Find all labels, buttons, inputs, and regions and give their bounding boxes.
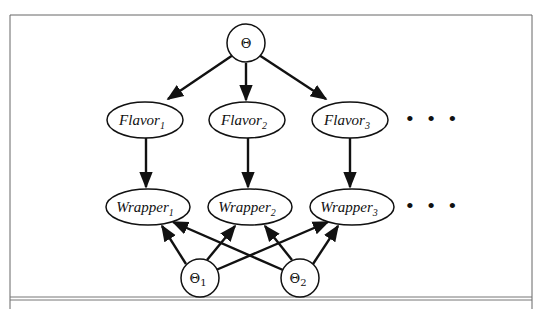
bayes-net-diagram: Θ Flavor1 Flavor2 Flavor3 • • • Wrapper1… bbox=[0, 0, 540, 309]
edge-theta2-wrapper2 bbox=[265, 226, 292, 260]
node-theta1: Θ1 bbox=[181, 259, 219, 297]
node-subscript: 1 bbox=[160, 120, 165, 131]
node-wrapper2: Wrapper2 bbox=[208, 189, 292, 225]
svg-text:Θ: Θ bbox=[241, 36, 252, 51]
node-flavor1: Flavor1 bbox=[107, 102, 183, 138]
edge-theta-flavor1 bbox=[168, 55, 233, 99]
node-subscript: 2 bbox=[271, 207, 276, 218]
node-subscript: 2 bbox=[262, 120, 267, 131]
node-label: Flavor bbox=[323, 112, 365, 128]
node-flavor3: Flavor3 bbox=[312, 102, 388, 138]
node-label: Flavor bbox=[118, 112, 160, 128]
ellipsis-wrappers: • • • bbox=[406, 193, 460, 218]
edge-theta2-wrapper3 bbox=[313, 226, 338, 264]
node-theta-label: Θ bbox=[241, 36, 252, 51]
node-subscript: 1 bbox=[200, 277, 206, 288]
edge-theta-flavor3 bbox=[259, 55, 326, 99]
node-wrapper3: Wrapper3 bbox=[310, 189, 394, 225]
node-subscript: 3 bbox=[364, 120, 370, 131]
edges bbox=[146, 55, 350, 270]
node-flavor2: Flavor2 bbox=[209, 102, 285, 138]
node-label: Wrapper bbox=[218, 199, 271, 215]
node-subscript: 3 bbox=[372, 207, 378, 218]
node-label: Θ bbox=[189, 271, 200, 286]
node-subscript: 1 bbox=[169, 207, 174, 218]
node-wrapper1: Wrapper1 bbox=[106, 189, 190, 225]
edge-theta1-wrapper1 bbox=[162, 226, 186, 264]
ellipsis-flavors: • • • bbox=[406, 106, 460, 131]
node-label: Wrapper bbox=[116, 199, 169, 215]
node-theta2: Θ2 bbox=[281, 259, 319, 297]
node-theta: Θ bbox=[227, 24, 265, 62]
node-label: Wrapper bbox=[320, 199, 373, 215]
node-subscript: 2 bbox=[300, 277, 306, 288]
node-label: Flavor bbox=[220, 112, 262, 128]
node-label: Θ bbox=[289, 271, 300, 286]
